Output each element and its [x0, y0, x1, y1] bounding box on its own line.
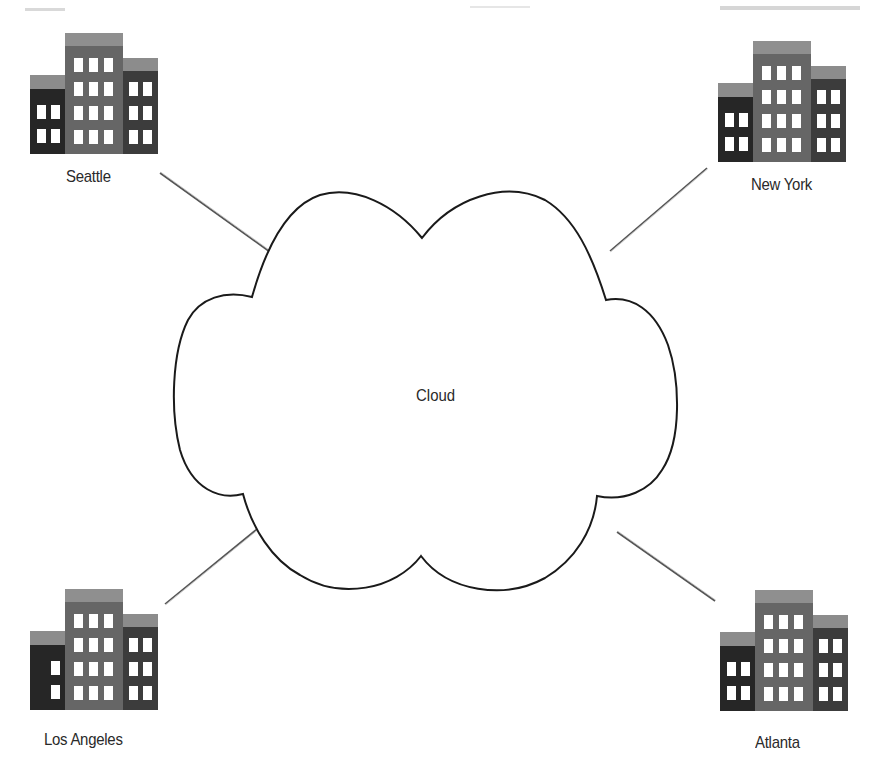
edge-losangeles-cloud [165, 525, 263, 605]
network-diagram: Seattle New York Los Angeles Atlanta Clo… [0, 0, 877, 778]
node-label-atlanta: Atlanta [755, 733, 800, 753]
node-label-new-york: New York [751, 175, 812, 195]
node-label-los-angeles: Los Angeles [44, 730, 123, 750]
office-building-icon-new-york [718, 41, 846, 162]
edge-atlanta-cloud [617, 531, 716, 601]
edge-newyork-cloud [610, 168, 708, 252]
office-building-icon-atlanta [720, 590, 848, 711]
cloud-label: Cloud [416, 386, 455, 406]
edge-seattle-cloud [160, 172, 271, 252]
office-building-icon-seattle [30, 33, 158, 154]
office-building-icon-los-angeles [30, 589, 158, 710]
node-label-seattle: Seattle [66, 167, 111, 187]
